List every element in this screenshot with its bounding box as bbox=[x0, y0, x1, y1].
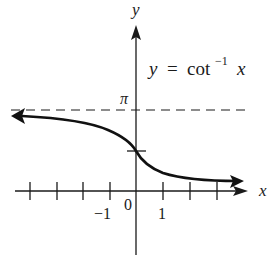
y-axis-label: y bbox=[130, 0, 140, 19]
origin-label: 0 bbox=[124, 196, 132, 213]
svg-text:x: x bbox=[236, 58, 246, 79]
cot-inverse-curve bbox=[22, 116, 238, 181]
svg-text:−1: −1 bbox=[215, 54, 228, 68]
svg-text:y: y bbox=[147, 58, 158, 79]
svg-text:cot: cot bbox=[187, 58, 211, 79]
equation-label: y = cot −1 x bbox=[147, 54, 246, 79]
tick-label-pos1: 1 bbox=[158, 205, 166, 222]
cot-inverse-graph: y x π y = cot −1 x 0 −1 1 bbox=[0, 0, 272, 264]
tick-label-neg1: −1 bbox=[94, 205, 111, 222]
y-axis bbox=[127, 25, 146, 255]
x-axis-label: x bbox=[258, 181, 267, 200]
asymptote-pi-label: π bbox=[120, 90, 129, 107]
svg-text:=: = bbox=[167, 58, 178, 79]
